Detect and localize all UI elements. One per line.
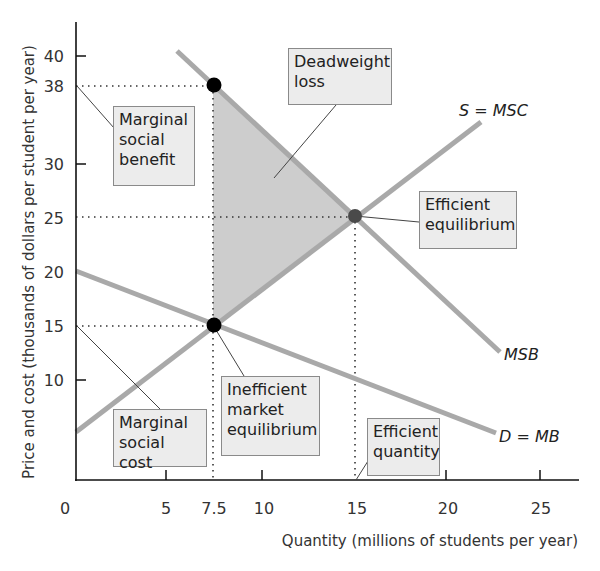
x-tick-7-5: 7.5	[201, 499, 226, 518]
x-axis-title: Quantity (millions of students per year)	[282, 532, 578, 550]
inefficient-equilibrium-label: Inefficient market equilibrium	[221, 376, 320, 456]
y-tick-38: 38	[44, 77, 64, 96]
x-tick-20: 20	[438, 499, 458, 518]
mb-curve-label: D = MB	[499, 427, 560, 446]
y-tick-40: 40	[44, 47, 64, 66]
y-tick-25: 25	[44, 209, 64, 228]
x-ticks	[166, 470, 540, 480]
y-axis-title: Price and cost (thousands of dollars per…	[20, 45, 38, 479]
x-tick-10: 10	[254, 499, 274, 518]
y-ticks	[76, 56, 86, 380]
msb-point-38	[207, 78, 222, 93]
x-tick-15: 15	[347, 499, 367, 518]
x-tick-5: 5	[161, 499, 171, 518]
y-tick-15: 15	[44, 317, 64, 336]
inefficient-equilibrium-point	[207, 318, 222, 333]
x-tick-25: 25	[531, 499, 551, 518]
x-tick-0: 0	[60, 499, 70, 518]
marginal-social-cost-label: Marginal social cost	[113, 409, 207, 467]
y-tick-30: 30	[44, 155, 64, 174]
msb-curve-label: MSB	[504, 345, 539, 364]
y-tick-10: 10	[44, 371, 64, 390]
efficient-quantity-label: Efficient quantity	[367, 418, 440, 476]
marginal-social-benefit-label: Marginal social benefit	[113, 106, 195, 186]
efficient-equilibrium-label: Efficient equilibrium	[419, 191, 517, 249]
deadweight-loss-label: Deadweight loss	[288, 48, 392, 105]
deadweight-loss-area	[213, 86, 355, 325]
efficient-equilibrium-point	[348, 209, 362, 223]
msc-curve-label: S = MSC	[459, 101, 529, 120]
y-tick-20: 20	[44, 263, 64, 282]
